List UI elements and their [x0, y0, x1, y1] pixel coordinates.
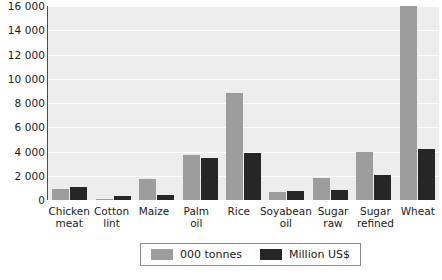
bar [183, 155, 200, 200]
plot-area [48, 6, 439, 200]
y-axis-tick-label: 4 000 [14, 147, 45, 157]
bar [287, 191, 304, 200]
bar [331, 190, 348, 200]
y-axis-tick-label: 12 000 [8, 50, 45, 60]
bar-group [178, 6, 221, 200]
legend-item-tonnes: 000 tonnes [151, 248, 242, 261]
y-axis-tick-label: 6 000 [14, 122, 45, 132]
bar [418, 149, 435, 200]
legend-swatch-icon-usd [260, 249, 282, 260]
bar-group [309, 6, 352, 200]
bar [400, 6, 417, 200]
bar [226, 93, 243, 200]
bar [114, 196, 131, 200]
x-axis-category-label: Soyabean oil [260, 202, 312, 236]
x-axis-category-label: Chicken meat [48, 202, 90, 236]
bar-group [135, 6, 178, 200]
x-axis-category-label: Sugar raw [312, 202, 354, 236]
y-axis-tick-label: 2 000 [14, 171, 45, 181]
bar-group [352, 6, 395, 200]
bar [157, 195, 174, 200]
x-axis-category-label: Rice [218, 202, 260, 236]
bar-group [265, 6, 308, 200]
legend: 000 tonnes Million US$ [140, 243, 361, 266]
x-axis: Chicken meatCotton lintMaizePalm oilRice… [48, 202, 439, 236]
y-axis-tick-label: 10 000 [8, 74, 45, 84]
x-axis-category-label: Palm oil [175, 202, 217, 236]
legend-label-tonnes: 000 tonnes [180, 248, 242, 261]
bar-chart: 02 0004 0006 0008 00010 00012 00014 0001… [0, 0, 442, 280]
y-axis-tick-label: 8 000 [14, 98, 45, 108]
x-axis-category-label: Maize [133, 202, 175, 236]
bar [139, 179, 156, 200]
x-axis-category-label: Cotton lint [90, 202, 132, 236]
bar-group [222, 6, 265, 200]
bar [356, 152, 373, 201]
bar-group [48, 6, 91, 200]
bar [52, 189, 69, 200]
bar [96, 199, 113, 200]
x-axis-category-label: Wheat [397, 202, 439, 236]
y-axis: 02 0004 0006 0008 00010 00012 00014 0001… [0, 0, 48, 205]
y-axis-tick-label: 0 [38, 195, 45, 205]
legend-swatch-icon-tonnes [151, 249, 173, 260]
legend-label-usd: Million US$ [289, 248, 350, 261]
x-axis-category-label: Sugar refined [354, 202, 396, 236]
bar [374, 175, 391, 200]
bar [313, 178, 330, 200]
bars-layer [48, 6, 439, 200]
legend-item-usd: Million US$ [260, 248, 350, 261]
bar [201, 158, 218, 200]
bar-group [396, 6, 439, 200]
bar [70, 187, 87, 200]
bar [269, 192, 286, 200]
y-axis-tick-label: 14 000 [8, 25, 45, 35]
bar [244, 153, 261, 200]
y-axis-tick-label: 16 000 [8, 1, 45, 11]
bar-group [91, 6, 134, 200]
